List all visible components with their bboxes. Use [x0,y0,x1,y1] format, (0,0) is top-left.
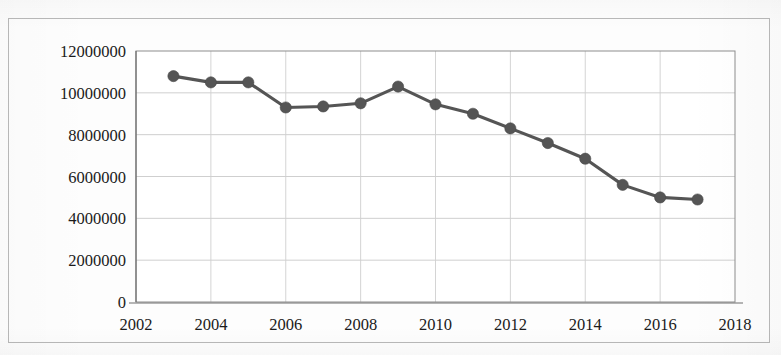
y-axis-tick-label: 4000000 [68,209,126,228]
x-axis-tick-label: 2010 [419,315,452,334]
data-point [580,153,591,164]
data-point [168,71,179,82]
screenshot-root: 0200000040000006000000800000010000000120… [0,0,781,355]
y-axis-tick-labels: 0200000040000006000000800000010000000120… [60,42,126,312]
data-point [392,81,403,92]
y-axis-tick-label: 8000000 [68,126,126,145]
data-point [617,179,628,190]
x-axis-tick-label: 2008 [344,315,377,334]
data-point [205,77,216,88]
x-axis-tick-labels: 200220042006200820102012201420162018 [120,315,752,334]
x-axis-tick-label: 2012 [494,315,527,334]
data-point [542,137,553,148]
y-axis-tick-label: 2000000 [68,251,126,270]
y-axis-tick-label: 10000000 [60,84,126,103]
x-axis-tick-label: 2014 [569,315,602,334]
x-axis-tick-label: 2006 [269,315,302,334]
data-point [692,194,703,205]
data-point [355,98,366,109]
data-point [467,108,478,119]
y-axis-tick-label: 6000000 [68,168,126,187]
data-point [280,102,291,113]
data-point [243,77,254,88]
x-axis-tick-label: 2002 [120,315,153,334]
data-point [430,99,441,110]
x-axis-tick-label: 2016 [644,315,677,334]
x-axis-tick-label: 2004 [194,315,227,334]
y-axis-tick-label: 12000000 [60,42,126,61]
y-axis-tick-label: 0 [118,293,126,312]
x-axis-tick-label: 2018 [719,315,752,334]
data-point [505,123,516,134]
data-point [655,192,666,203]
data-point [318,101,329,112]
line-chart: 0200000040000006000000800000010000000120… [0,0,781,355]
